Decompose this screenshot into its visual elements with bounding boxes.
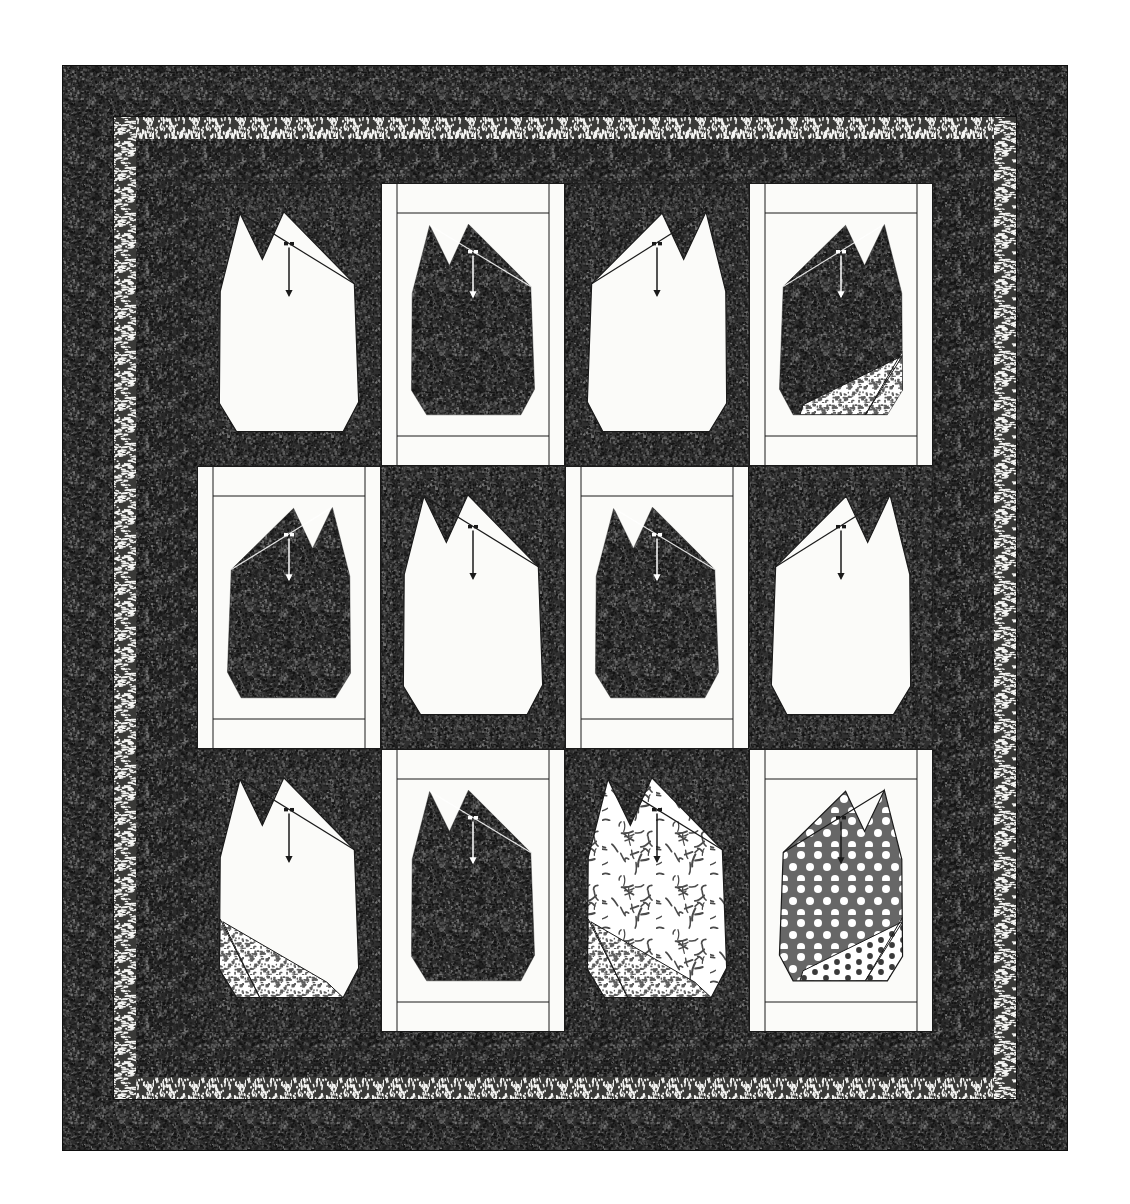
cat-eye-left-icon xyxy=(284,533,288,536)
cat-eye-left-icon xyxy=(468,250,472,253)
cat-eye-right-icon xyxy=(474,250,478,253)
cat-eye-right-icon xyxy=(474,816,478,819)
cat-eye-left-icon xyxy=(836,525,840,528)
cat-eye-left-icon xyxy=(652,242,656,245)
quilt-block-1[interactable] xyxy=(197,183,381,466)
cat-eye-right-icon xyxy=(842,525,846,528)
quilt-block-3[interactable] xyxy=(565,183,749,466)
quilt-block-9[interactable] xyxy=(197,749,381,1032)
speckle-border-right xyxy=(994,116,1017,1100)
cat-eye-right-icon xyxy=(290,533,294,536)
quilt-block-4[interactable] xyxy=(749,183,933,466)
quilt-artwork xyxy=(62,65,1068,1151)
cat-eye-left-icon xyxy=(836,250,840,253)
cat-eye-left-icon xyxy=(652,808,656,811)
quilt-vector xyxy=(62,65,1068,1151)
cat-eye-left-icon xyxy=(468,816,472,819)
cat-eye-right-icon xyxy=(842,816,846,819)
quilt-block-7[interactable] xyxy=(565,466,749,749)
cat-eye-right-icon xyxy=(290,808,294,811)
cat-eye-left-icon xyxy=(284,242,288,245)
quilt-block-11[interactable] xyxy=(565,749,749,1032)
quilt-block-6[interactable] xyxy=(381,466,565,749)
quilt-block-10[interactable] xyxy=(381,749,565,1032)
cat-eye-right-icon xyxy=(474,525,478,528)
cat-eye-left-icon xyxy=(836,816,840,819)
cat-eye-left-icon xyxy=(652,533,656,536)
speckle-border-top xyxy=(113,116,1017,139)
quilt-block-8[interactable] xyxy=(749,466,933,749)
speckle-border-bottom xyxy=(113,1077,1017,1100)
quilt-block-12[interactable] xyxy=(749,749,933,1032)
cat-eye-left-icon xyxy=(284,808,288,811)
quilt-block-5[interactable] xyxy=(197,466,381,749)
quilt-diagram-canvas xyxy=(0,0,1130,1204)
cat-eye-right-icon xyxy=(842,250,846,253)
cat-eye-left-icon xyxy=(468,525,472,528)
cat-eye-right-icon xyxy=(658,242,662,245)
cat-eye-right-icon xyxy=(658,533,662,536)
quilt-block-2[interactable] xyxy=(381,183,565,466)
cat-eye-right-icon xyxy=(658,808,662,811)
cat-eye-right-icon xyxy=(290,242,294,245)
speckle-border-left xyxy=(113,116,136,1100)
